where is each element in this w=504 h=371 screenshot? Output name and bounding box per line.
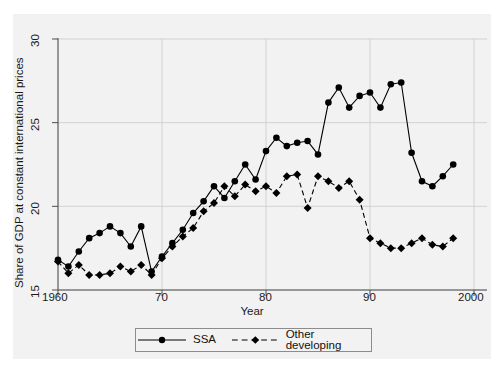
- x-tick-label-70: 70: [155, 292, 168, 304]
- x-tick-label-90: 90: [363, 292, 376, 304]
- y-tick-label-15: 15: [30, 285, 42, 298]
- axis-lines: [58, 38, 487, 290]
- y-tick-label-25: 25: [30, 118, 42, 131]
- x-axis-label: Year: [0, 306, 504, 318]
- data-series-layer: [54, 79, 457, 279]
- x-tick-label-80: 80: [259, 292, 272, 304]
- legend-label-ssa: SSA: [193, 334, 216, 346]
- legend-entry-ssa: SSA: [136, 334, 216, 346]
- x-tick-label-1960: 1960: [42, 292, 68, 304]
- legend-key-dashed-diamond-icon: [230, 334, 281, 346]
- y-axis-label: Share of GDP at constant international p…: [14, 57, 26, 288]
- legend-entry-other-developing: Other developing: [230, 329, 371, 352]
- chart-legend: SSA Other developing: [135, 328, 372, 352]
- series-ssa: [55, 79, 457, 275]
- legend-key-solid-circle-icon: [136, 334, 188, 346]
- x-tick-label-2000: 2000: [458, 292, 484, 304]
- y-tick-label-30: 30: [30, 34, 42, 47]
- y-tick-label-20: 20: [30, 202, 42, 215]
- gridlines: [58, 39, 487, 290]
- series-other-developing: [54, 171, 457, 279]
- chart-figure: 30 25 20 15 Share of GDP at constant int…: [0, 0, 504, 371]
- tick-marks: [52, 39, 474, 296]
- legend-label-other-developing: Other developing: [286, 329, 371, 352]
